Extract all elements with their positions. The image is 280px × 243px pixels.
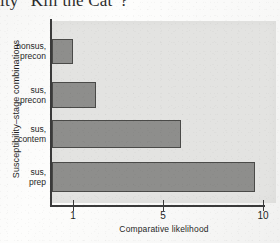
x-axis-line xyxy=(50,205,265,207)
y-category-line-1: sus, xyxy=(0,167,46,177)
y-category-label-sus-prep: sus, prep xyxy=(0,167,46,187)
y-category-line-2: prep xyxy=(0,177,46,187)
y-category-line-1: nonsus, xyxy=(0,41,46,51)
y-category-line-1: sus, xyxy=(0,124,46,134)
x-tick-label-10: 10 xyxy=(257,210,268,221)
y-category-label-sus-precon: sus, precon xyxy=(0,85,46,105)
bar-sus-precon xyxy=(52,82,96,108)
y-category-line-2: contem xyxy=(0,134,46,144)
x-axis-title: Comparative likelihood xyxy=(52,224,276,234)
y-category-line-2: precon xyxy=(0,51,46,61)
y-category-label-nonsus-precon: nonsus, precon xyxy=(0,41,46,61)
y-category-line-2: precon xyxy=(0,95,46,105)
x-tick-label-5: 5 xyxy=(160,210,166,221)
y-category-line-1: sus, xyxy=(0,85,46,95)
bar-sus-contem xyxy=(52,120,181,148)
y-category-label-sus-contem: sus, contem xyxy=(0,124,46,144)
bar-nonsus-precon xyxy=(52,39,73,64)
bar-chart-figure: nonsus, precon sus, precon sus, contem s… xyxy=(0,0,280,243)
y-axis-title: Susceptibility–stage combinations xyxy=(11,21,21,197)
x-tick-label-1: 1 xyxy=(70,210,76,221)
bar-sus-prep xyxy=(52,162,255,192)
